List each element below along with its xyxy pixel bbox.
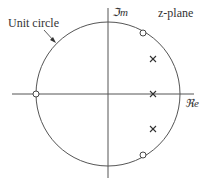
real-axis-label: ℜe	[185, 97, 199, 109]
z-plane-diagram: Unit circle ℑm ℜe z-plane	[0, 0, 211, 189]
imag-axis-label: ℑm	[112, 6, 128, 18]
zero-marker-icon	[33, 91, 39, 97]
zero-marker-icon	[140, 152, 146, 158]
pole-marker-icon	[150, 126, 156, 132]
plane-title: z-plane	[158, 6, 193, 20]
unit-circle-label: Unit circle	[8, 16, 59, 30]
zero-marker-icon	[140, 30, 146, 36]
pole-marker-icon	[150, 56, 156, 62]
